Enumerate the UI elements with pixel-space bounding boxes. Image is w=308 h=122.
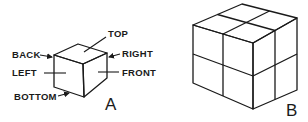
arrow-right <box>109 54 120 57</box>
cube-a-top-face <box>54 44 107 64</box>
label-front: FRONT <box>122 67 156 78</box>
cube-a-right-face <box>83 53 107 97</box>
caption-b: B <box>286 101 297 120</box>
label-bottom: BOTTOM <box>14 91 57 102</box>
panel-a: TOP BACK RIGHT LEFT FRONT BOTTOM A <box>12 28 156 114</box>
label-right: RIGHT <box>122 48 153 59</box>
arrow-back <box>40 55 52 57</box>
cube-b-top-divider-2 <box>223 11 270 34</box>
label-top: TOP <box>108 28 129 39</box>
cube-diagram: TOP BACK RIGHT LEFT FRONT BOTTOM A <box>0 0 308 122</box>
label-back: BACK <box>12 49 41 60</box>
caption-a: A <box>105 95 117 114</box>
arrow-bottom <box>58 93 69 96</box>
label-left: LEFT <box>12 67 37 78</box>
cube-a <box>54 44 107 97</box>
cube-a-left-face <box>54 55 84 97</box>
panel-b: B <box>193 4 297 120</box>
cube-b <box>193 4 297 109</box>
